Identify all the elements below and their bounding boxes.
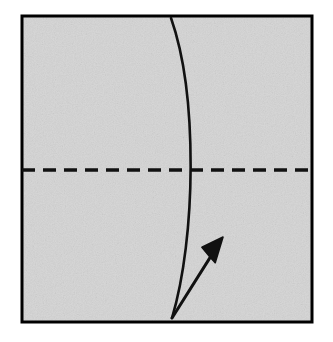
diagram-canvas — [0, 0, 333, 342]
origami-diagram — [0, 0, 333, 342]
